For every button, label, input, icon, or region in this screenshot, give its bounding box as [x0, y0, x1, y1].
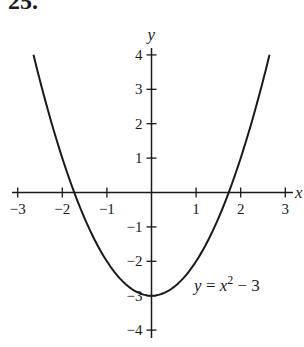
equation-y: y: [192, 276, 202, 295]
x-tick-label: 1: [192, 201, 200, 217]
y-tick-label: −4: [127, 322, 143, 338]
equation-suffix: − 3: [233, 276, 260, 295]
y-tick-label: 1: [135, 150, 143, 166]
x-axis-label: x: [294, 183, 303, 202]
y-tick-label: 2: [135, 116, 143, 132]
y-tick-label: −1: [127, 219, 143, 235]
x-tick-label: −2: [54, 201, 70, 217]
x-tick-label: 2: [237, 201, 245, 217]
y-tick-label: −2: [127, 253, 143, 269]
parabola-graph: −3−2−11234321−1−2−3−4 x y y = x2 − 3: [0, 0, 304, 347]
x-tick-label: −1: [99, 201, 115, 217]
equation-label: y = x2 − 3: [192, 273, 260, 295]
x-tick-label: 3: [282, 201, 290, 217]
y-axis-label: y: [146, 25, 156, 44]
y-tick-label: 3: [135, 81, 143, 97]
x-tick-label: −3: [10, 201, 26, 217]
equation-eq: =: [202, 276, 220, 295]
y-tick-label: 4: [135, 47, 143, 63]
